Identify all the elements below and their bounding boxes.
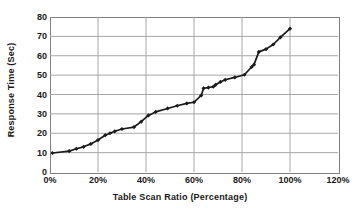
x-tick-label: 100%	[278, 175, 301, 185]
x-tick-label: 80%	[233, 175, 251, 185]
x-tick-label: 60%	[185, 175, 203, 185]
x-tick-label: 40%	[137, 175, 155, 185]
x-axis-title: Table Scan Ratio (Percentage)	[0, 192, 360, 202]
chart-container: Response Time (Sec) 01020304050607080 0%…	[0, 0, 360, 213]
x-tick-label: 120%	[326, 175, 349, 185]
x-tick-label: 0%	[43, 175, 56, 185]
x-axis-tick-labels: 0%20%40%60%80%100%120%	[0, 0, 360, 213]
x-tick-label: 20%	[89, 175, 107, 185]
